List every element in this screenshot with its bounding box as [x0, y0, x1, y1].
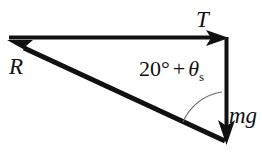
vector-diagram-canvas — [0, 0, 262, 155]
vector-label-tension: T — [196, 8, 209, 31]
angle-operator: + — [173, 56, 185, 81]
vector-T — [9, 30, 229, 46]
vector-label-resultant: R — [9, 55, 23, 78]
angle-value: 20° — [139, 56, 170, 81]
angle-arc — [183, 92, 222, 122]
vector-R-arrowhead — [7, 40, 33, 54]
vector-label-weight: mg — [229, 104, 257, 127]
angle-label: 20°+θs — [139, 58, 204, 83]
force-triangle-figure: T R mg 20°+θs — [0, 0, 262, 155]
angle-theta-symbol: θ — [188, 56, 199, 81]
angle-theta-subscript: s — [199, 69, 204, 84]
vector-mg — [218, 37, 235, 145]
